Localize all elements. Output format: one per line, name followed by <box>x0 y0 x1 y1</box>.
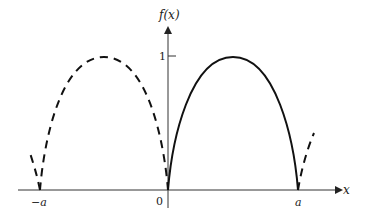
x-tick-label-neg-a: −a <box>31 196 47 209</box>
y-tick-label: 1 <box>159 50 166 63</box>
dashed-curve-left <box>29 150 40 190</box>
y-axis-label: f(x) <box>158 8 180 22</box>
x-tick-label-a: a <box>295 196 302 209</box>
function-plot: f(x) 1 x −a 0 a <box>0 0 365 217</box>
solid-curve <box>168 57 298 190</box>
dashed-curve-right <box>298 133 314 190</box>
dashed-curve-main <box>40 57 168 190</box>
x-axis-label: x <box>343 183 350 197</box>
x-tick-label-zero: 0 <box>156 195 163 208</box>
